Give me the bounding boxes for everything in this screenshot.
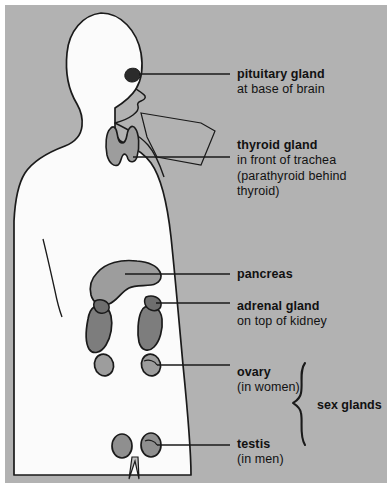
diagram-page: pituitary gland at base of brain thyroid… (0, 0, 392, 489)
label-ovary: ovary (in women) (237, 365, 300, 396)
label-testis-detail: (in men) (237, 452, 284, 467)
label-adrenal-title: adrenal gland (237, 299, 327, 314)
label-adrenal-detail: on top of kidney (237, 314, 327, 329)
pituitary-gland-shape (125, 68, 140, 82)
label-ovary-title: ovary (237, 365, 300, 380)
label-thyroid-detail2: (parathyroid behind (237, 169, 347, 184)
label-thyroid-detail: in front of trachea (237, 153, 347, 168)
adrenal-gland-left-shape (94, 300, 109, 313)
label-pituitary-title: pituitary gland (237, 67, 325, 82)
testis-left-shape (112, 434, 132, 458)
label-sex-glands: sex glands (317, 398, 382, 412)
body-outline-path (14, 13, 191, 475)
label-thyroid: thyroid gland in front of trachea (parat… (237, 138, 347, 199)
label-pancreas: pancreas (237, 267, 293, 282)
label-adrenal: adrenal gland on top of kidney (237, 299, 327, 330)
human-body-silhouette (14, 13, 191, 475)
pituitary-gland (125, 68, 140, 82)
label-pancreas-title: pancreas (237, 267, 293, 282)
label-thyroid-detail3: thyroid) (237, 184, 347, 199)
label-testis-title: testis (237, 437, 284, 452)
label-pituitary-detail: at base of brain (237, 82, 325, 97)
label-pituitary: pituitary gland at base of brain (237, 67, 325, 98)
label-thyroid-title: thyroid gland (237, 138, 347, 153)
label-testis: testis (in men) (237, 437, 284, 468)
diagram-frame: pituitary gland at base of brain thyroid… (5, 5, 387, 483)
label-ovary-detail: (in women) (237, 380, 300, 395)
